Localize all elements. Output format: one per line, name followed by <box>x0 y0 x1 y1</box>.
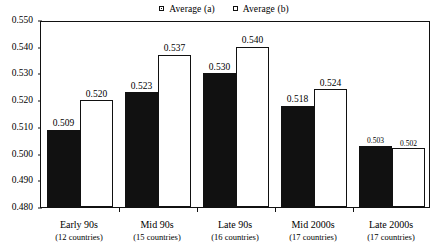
x-axis-category-label: Mid 2000s(17 countries) <box>274 219 352 242</box>
legend-entry-average-a: Average (a) <box>159 4 215 14</box>
category-name: Early 90s <box>40 219 118 232</box>
bar-value-label: 0.502 <box>399 140 418 148</box>
y-axis-tick-label: 0.480 <box>12 203 33 213</box>
category-sublabel: (16 countries) <box>196 232 274 243</box>
x-axis-tick-mark <box>353 207 354 212</box>
x-axis-category-label: Early 90s(12 countries) <box>40 219 118 242</box>
bar-value-label: 0.524 <box>319 79 342 89</box>
bar-average-b <box>80 100 113 207</box>
legend-label-average-a: Average (a) <box>169 4 215 14</box>
x-axis-tick-mark <box>197 207 198 212</box>
legend-swatch-open-square-icon <box>233 6 238 11</box>
bar-average-b <box>314 89 347 207</box>
category-name: Mid 90s <box>118 219 196 232</box>
bar-value-label: 0.537 <box>163 44 186 54</box>
category-name: Late 90s <box>196 219 274 232</box>
legend-label-average-b: Average (b) <box>243 4 289 14</box>
x-axis-category-label: Late 2000s(17 countries) <box>352 219 430 242</box>
category-name: Mid 2000s <box>274 219 352 232</box>
x-axis: Early 90s(12 countries)Mid 90s(15 countr… <box>40 213 430 247</box>
bar-value-label: 0.523 <box>130 82 153 92</box>
y-axis-tick-label: 0.540 <box>12 43 33 53</box>
x-axis-tick-mark <box>275 207 276 212</box>
bar-average-a <box>281 106 314 208</box>
category-sublabel: (12 countries) <box>40 232 118 243</box>
legend-entry-average-b: Average (b) <box>233 4 289 14</box>
bar-value-label: 0.530 <box>208 63 231 73</box>
bar-average-b <box>392 148 425 207</box>
x-axis-category-label: Mid 90s(15 countries) <box>118 219 196 242</box>
chart-legend: Average (a) Average (b) <box>0 2 448 16</box>
bars-layer: 0.5090.5200.5230.5370.5300.5400.5180.524… <box>41 22 429 207</box>
bar-average-a <box>47 130 80 207</box>
x-axis-category-label: Late 90s(16 countries) <box>196 219 274 242</box>
y-axis-tick-label: 0.550 <box>12 16 33 26</box>
category-sublabel: (15 countries) <box>118 232 196 243</box>
bar-average-b <box>158 55 191 207</box>
y-axis-tick-label: 0.520 <box>12 96 33 106</box>
x-axis-tick-mark <box>119 207 120 212</box>
y-axis: 0.5500.5400.5300.5200.5100.5000.4900.480 <box>0 21 38 208</box>
bar-value-label: 0.520 <box>85 90 108 100</box>
legend-swatch-filled-square-icon <box>159 6 164 11</box>
y-axis-tick-label: 0.500 <box>12 150 33 160</box>
bar-value-label: 0.540 <box>241 36 264 46</box>
bar-average-a <box>125 92 158 207</box>
y-axis-tick-label: 0.530 <box>12 70 33 80</box>
bar-value-label: 0.518 <box>286 95 309 105</box>
bar-average-a <box>203 73 236 207</box>
category-sublabel: (17 countries) <box>352 232 430 243</box>
bar-average-b <box>236 47 269 207</box>
plot-area: 0.5090.5200.5230.5370.5300.5400.5180.524… <box>40 21 430 208</box>
bar-value-label: 0.509 <box>52 119 75 129</box>
category-sublabel: (17 countries) <box>274 232 352 243</box>
y-axis-tick-label: 0.510 <box>12 123 33 133</box>
bar-average-a <box>359 146 392 207</box>
category-name: Late 2000s <box>352 219 430 232</box>
y-axis-tick-label: 0.490 <box>12 177 33 187</box>
bar-value-label: 0.503 <box>366 137 385 145</box>
